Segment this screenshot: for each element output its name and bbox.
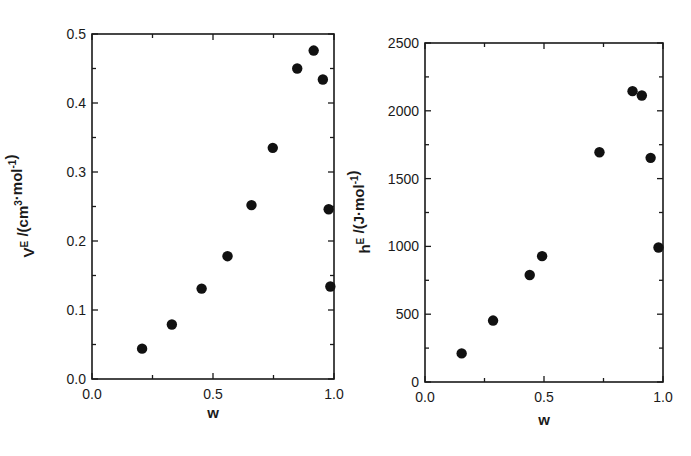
- data-point: [456, 348, 466, 358]
- y-tick-label: 0.3: [67, 164, 87, 180]
- y-tick-label: 500: [396, 306, 420, 322]
- data-point: [196, 283, 206, 293]
- plot-frame: [92, 34, 334, 379]
- data-point: [537, 251, 547, 261]
- y-axis-label: hE /(J·mol-1): [344, 170, 373, 253]
- enthalpy-excess-chart: 0.00.51.005001000150020002500whE /(J·mol…: [344, 35, 673, 428]
- data-point: [167, 319, 177, 329]
- data-point: [268, 143, 278, 153]
- y-tick-label: 2000: [388, 103, 419, 119]
- x-axis-label: w: [206, 404, 219, 421]
- data-point: [246, 200, 256, 210]
- data-point: [325, 281, 335, 291]
- y-axis-label: VE /(cm3·mol-1): [2, 155, 37, 258]
- data-point: [525, 270, 535, 280]
- data-point: [594, 147, 604, 157]
- data-point: [637, 90, 647, 100]
- data-point: [323, 204, 333, 214]
- x-tick-label: 0.5: [534, 389, 554, 405]
- data-point: [292, 63, 302, 73]
- x-tick-label: 0.0: [415, 389, 435, 405]
- data-point: [627, 86, 637, 96]
- y-tick-label: 0.1: [67, 302, 87, 318]
- data-point: [488, 315, 498, 325]
- y-tick-label: 0.5: [67, 26, 87, 42]
- y-tick-label: 0.2: [67, 233, 87, 249]
- y-tick-label: 0: [411, 374, 419, 390]
- plot-frame: [425, 43, 663, 382]
- volume-excess-chart: 0.00.51.00.00.10.20.30.40.5wVE /(cm3·mol…: [2, 26, 344, 421]
- data-point: [222, 251, 232, 261]
- data-point: [653, 242, 663, 252]
- x-tick-label: 1.0: [324, 386, 344, 402]
- y-tick-label: 0.0: [67, 371, 87, 387]
- data-point: [645, 153, 655, 163]
- data-point: [137, 343, 147, 353]
- x-axis-label: w: [537, 411, 550, 428]
- y-tick-label: 0.4: [67, 95, 87, 111]
- x-tick-label: 0.5: [203, 386, 223, 402]
- y-tick-label: 1500: [388, 171, 419, 187]
- figure: 0.00.51.00.00.10.20.30.40.5wVE /(cm3·mol…: [0, 0, 691, 456]
- x-tick-label: 0.0: [82, 386, 102, 402]
- y-tick-label: 2500: [388, 35, 419, 51]
- data-point: [318, 74, 328, 84]
- x-tick-label: 1.0: [653, 389, 673, 405]
- y-tick-label: 1000: [388, 238, 419, 254]
- data-point: [308, 45, 318, 55]
